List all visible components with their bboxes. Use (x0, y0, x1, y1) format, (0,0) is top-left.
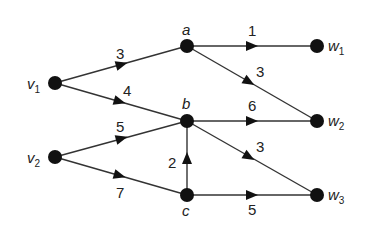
node-v2 (48, 150, 62, 164)
weight-v1-b: 4 (123, 82, 131, 99)
node-c (180, 188, 194, 202)
node-v1 (48, 76, 62, 90)
node-w2 (310, 114, 324, 128)
label-w1: w1 (328, 37, 345, 57)
weight-a-w2: 3 (256, 63, 264, 80)
label-b: b (182, 95, 190, 112)
arrow-icon (113, 169, 127, 182)
weight-b-w2: 6 (248, 97, 256, 114)
weight-a-w1: 1 (248, 22, 256, 39)
arrow-icon (182, 152, 192, 164)
arrow-icon (246, 41, 258, 51)
directed-weighted-graph: v1 v2 a b c w1 w2 w3 3 4 5 7 2 1 3 6 3 5 (0, 0, 368, 239)
weight-c-w3: 5 (248, 201, 256, 218)
weight-v2-c: 7 (116, 184, 124, 201)
label-c: c (182, 202, 190, 219)
weight-b-w3: 3 (256, 138, 264, 155)
arrow-icon (246, 116, 258, 126)
node-w3 (310, 188, 324, 202)
arrow-icon (242, 150, 257, 165)
label-w2: w2 (328, 112, 345, 132)
label-a: a (182, 21, 190, 38)
node-w1 (310, 39, 324, 53)
node-b (180, 114, 194, 128)
label-v1: v1 (27, 75, 41, 95)
weight-c-b: 2 (168, 154, 176, 171)
label-v2: v2 (27, 149, 41, 169)
graph-canvas: v1 v2 a b c w1 w2 w3 3 4 5 7 2 1 3 6 3 5 (0, 0, 368, 239)
label-w3: w3 (328, 186, 345, 206)
node-a (180, 39, 194, 53)
arrow-icon (246, 190, 258, 200)
weight-v2-b: 5 (116, 118, 124, 135)
arrow-icon (242, 75, 257, 90)
weight-v1-a: 3 (116, 45, 124, 62)
